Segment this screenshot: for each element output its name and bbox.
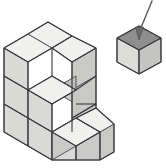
arrow-shaft xyxy=(140,1,152,30)
main-cube-stack[interactable] xyxy=(4,22,114,160)
isometric-figure-canvas: Isometric cube assembly with detached cu… xyxy=(0,0,166,168)
isometric-drawing xyxy=(0,0,166,168)
